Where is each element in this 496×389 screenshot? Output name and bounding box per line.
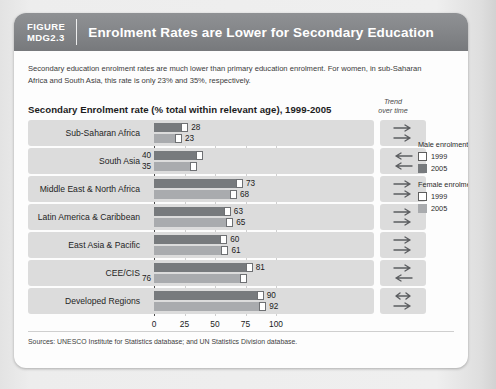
legend-item-female-1999: 1999 — [418, 192, 468, 201]
arrow-right-icon — [393, 208, 413, 216]
row-label-3: Latin America & Caribbean — [28, 204, 140, 230]
table-row: Sub-Saharan Africa2823 — [28, 120, 374, 146]
chart-container: Secondary Enrolment rate (% total within… — [14, 98, 468, 333]
bar-female-5-1999-marker — [240, 274, 247, 283]
x-tick-100: 100 — [269, 319, 283, 329]
bar-male-0-1999-marker — [181, 123, 188, 132]
legend-swatch-female-1999 — [418, 192, 427, 201]
bar-male-2: 73 — [154, 179, 243, 188]
bar-male-4-1999-marker — [220, 235, 227, 244]
bar-male-5: 81 — [154, 263, 253, 272]
bar-male-5-1999-marker — [246, 263, 253, 272]
bar-male-2-1999-marker — [236, 179, 243, 188]
trend-cell-6 — [380, 288, 426, 314]
bar-male-6-value: 90 — [267, 291, 276, 301]
legend-group-female: Female enrolment: 1999 2005 — [418, 180, 468, 213]
bar-male-5-value: 81 — [256, 263, 265, 273]
bar-female-1-1999-marker — [190, 162, 197, 171]
bar-male-2-value: 73 — [246, 179, 255, 189]
bar-male-0-value: 28 — [191, 123, 200, 133]
arrow-right-icon — [393, 134, 413, 142]
arrow-right-icon — [393, 180, 413, 188]
row-bars-6: 9092 — [154, 288, 294, 314]
arrow-both-icon — [393, 292, 413, 300]
legend-swatch-female-2005 — [418, 204, 427, 213]
chart-title: Secondary Enrolment rate (% total within… — [28, 104, 331, 115]
x-tick-0: 0 — [152, 319, 157, 329]
figure-number: FIGURE MDG2.3 — [27, 21, 76, 44]
figure-card: FIGURE MDG2.3 Enrolment Rates are Lower … — [14, 13, 468, 368]
banner-divider — [76, 19, 77, 45]
bar-female-3-1999-marker — [226, 218, 233, 227]
bar-male-6: 90 — [154, 291, 264, 300]
row-bars-2: 7368 — [154, 176, 294, 202]
figure-banner: FIGURE MDG2.3 Enrolment Rates are Lower … — [14, 13, 468, 51]
bar-female-5-value: 76 — [142, 274, 151, 284]
chart-header: Secondary Enrolment rate (% total within… — [28, 98, 458, 115]
arrow-right-icon — [393, 190, 413, 198]
table-row: Latin America & Caribbean6365 — [28, 204, 374, 230]
arrow-right-icon — [393, 124, 413, 132]
row-label-4: East Asia & Pacific — [28, 232, 140, 258]
bar-male-0: 28 — [154, 123, 188, 132]
bar-female-2-value: 68 — [240, 190, 249, 200]
bar-female-3-value: 65 — [236, 218, 245, 228]
bar-male-6-1999-marker — [257, 291, 264, 300]
legend-group-male: Male enrolment: 1999 2005 — [418, 140, 468, 173]
arrow-right-icon — [393, 218, 413, 226]
legend-item-male-1999: 1999 — [418, 152, 468, 161]
table-row: CEE/CIS8176 — [28, 260, 374, 286]
trend-column-header: Trend over time — [370, 98, 416, 115]
bar-female-4-value: 61 — [231, 246, 240, 256]
legend-male-header: Male enrolment: — [418, 140, 468, 149]
row-bars-3: 6365 — [154, 204, 294, 230]
bar-female-5: 76 — [154, 274, 247, 283]
bar-female-2-1999-marker — [230, 190, 237, 199]
arrow-left-icon — [393, 162, 413, 170]
legend-female-header: Female enrolment: — [418, 180, 468, 189]
bar-male-3-value: 63 — [234, 207, 243, 217]
trend-cell-4 — [380, 232, 426, 258]
row-label-5: CEE/CIS — [28, 260, 140, 286]
arrow-right-icon — [393, 236, 413, 244]
legend-label-female-1999: 1999 — [431, 192, 447, 201]
bar-male-3-1999-marker — [224, 207, 231, 216]
row-label-1: South Asia — [28, 148, 140, 174]
arrow-left-icon — [393, 274, 413, 282]
table-row: Middle East & North Africa7368 — [28, 176, 374, 202]
x-tick-25: 25 — [180, 319, 189, 329]
chart-legend: Male enrolment: 1999 2005 Female enrolme… — [418, 140, 468, 220]
table-row: South Asia4035 — [28, 148, 374, 174]
bar-female-0-value: 23 — [185, 134, 194, 144]
sources-note: Sources: UNESCO Institute for Statistics… — [28, 338, 297, 345]
bar-female-1: 35 — [154, 162, 197, 171]
bar-female-4-1999-marker — [221, 246, 228, 255]
x-tick-50: 50 — [210, 319, 219, 329]
row-bars-0: 2823 — [154, 120, 294, 146]
footer-divider — [28, 331, 454, 332]
arrow-left-icon — [393, 152, 413, 160]
legend-item-female-2005: 2005 — [418, 204, 468, 213]
table-row: East Asia & Pacific6061 — [28, 232, 374, 258]
row-bars-1: 4035 — [154, 148, 294, 174]
legend-item-male-2005: 2005 — [418, 164, 468, 173]
bar-female-0-1999-marker — [175, 134, 182, 143]
bar-female-6: 92 — [154, 302, 266, 311]
bar-female-0: 23 — [154, 134, 182, 143]
row-label-2: Middle East & North Africa — [28, 176, 140, 202]
figure-description: Secondary education enrolment rates are … — [14, 51, 468, 86]
x-tick-75: 75 — [241, 319, 250, 329]
arrow-right-icon — [393, 246, 413, 254]
bar-male-1-1999-marker — [196, 151, 203, 160]
bar-female-3: 65 — [154, 218, 233, 227]
row-label-0: Sub-Saharan Africa — [28, 120, 140, 146]
row-label-6: Developed Regions — [28, 288, 140, 314]
legend-swatch-male-1999 — [418, 152, 427, 161]
legend-label-female-2005: 2005 — [431, 204, 447, 213]
bar-female-6-value: 92 — [269, 302, 278, 312]
bar-male-4-value: 60 — [230, 235, 239, 245]
bar-male-1: 40 — [154, 151, 203, 160]
table-row: Developed Regions9092 — [28, 288, 374, 314]
arrow-right-icon — [393, 302, 413, 310]
plot-area: Sub-Saharan Africa2823South Asia4035Midd… — [28, 120, 458, 316]
